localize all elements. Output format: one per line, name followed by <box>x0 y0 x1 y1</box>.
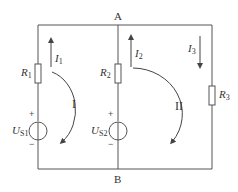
us2-minus: − <box>108 140 113 149</box>
circuit-diagram <box>0 0 238 192</box>
r2-label: R2 <box>100 67 111 80</box>
loop-1-label: I <box>72 98 76 110</box>
us1-label: US1 <box>12 125 28 138</box>
r3-label: R3 <box>219 89 230 102</box>
r1-label: R1 <box>21 67 32 80</box>
us2-label: US2 <box>91 125 107 138</box>
i1-label: I1 <box>55 53 63 66</box>
node-b-label: B <box>114 174 121 185</box>
node-a-label: A <box>114 11 122 22</box>
i2-label: I2 <box>135 48 143 61</box>
resistor-r3 <box>209 86 215 105</box>
us1-plus: + <box>29 110 34 119</box>
i3-label: I3 <box>188 43 196 56</box>
us2-plus: + <box>108 110 113 119</box>
us1-minus: − <box>29 140 34 149</box>
loop-2-label: II <box>175 100 183 112</box>
resistor-r1 <box>35 64 41 83</box>
resistor-r2 <box>115 64 121 83</box>
